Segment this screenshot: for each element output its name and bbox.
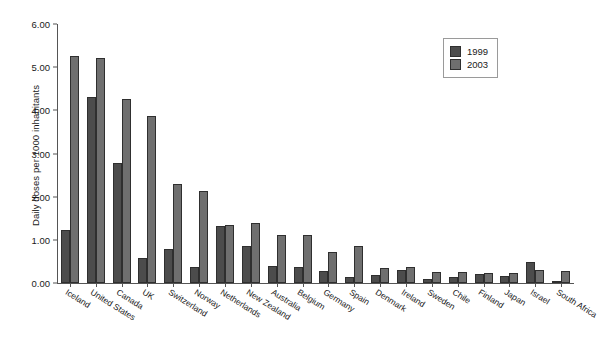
bar-2003 — [122, 99, 131, 283]
bar-1999 — [190, 267, 199, 283]
x-axis-label: Israel — [529, 287, 552, 307]
x-axis-tick-mark — [147, 283, 148, 287]
bar-2003 — [328, 252, 337, 283]
bar-group — [186, 24, 212, 283]
bar-1999 — [345, 277, 354, 283]
x-axis-tick-mark — [225, 283, 226, 287]
x-axis-label: Finland — [477, 287, 506, 310]
bar-group — [341, 24, 367, 283]
x-axis-tick-mark — [277, 283, 278, 287]
bar-group — [316, 24, 342, 283]
bar-group — [83, 24, 109, 283]
bar-2003 — [458, 272, 467, 283]
bar-group — [367, 24, 393, 283]
bar-1999 — [449, 277, 458, 283]
x-axis-label: Japan — [503, 287, 528, 308]
bar-group — [264, 24, 290, 283]
x-axis-label: Sweden — [425, 287, 456, 312]
bar-2003 — [225, 225, 234, 283]
bar-group — [109, 24, 135, 283]
legend-swatch-icon-2003 — [450, 59, 461, 70]
x-axis-line — [57, 283, 574, 284]
bar-2003 — [406, 267, 415, 283]
x-axis-tick-mark — [432, 283, 433, 287]
bar-group — [522, 24, 548, 283]
x-axis-tick-mark — [328, 283, 329, 287]
x-axis-tick-mark — [303, 283, 304, 287]
bar-group — [160, 24, 186, 283]
bar-2003 — [173, 184, 182, 283]
bar-1999 — [526, 262, 535, 283]
x-axis-label: South Africa — [554, 287, 598, 320]
bar-2003 — [509, 273, 518, 283]
bar-1999 — [113, 163, 122, 283]
bar-1999 — [268, 266, 277, 283]
x-axis-tick-mark — [509, 283, 510, 287]
bar-2003 — [277, 235, 286, 283]
bar-2003 — [303, 235, 312, 283]
bar-1999 — [371, 275, 380, 283]
bar-1999 — [216, 226, 225, 283]
legend-item-2003: 2003 — [450, 59, 488, 70]
bar-2003 — [147, 116, 156, 283]
x-axis-tick-mark — [251, 283, 252, 287]
bar-1999 — [138, 258, 147, 283]
x-axis-tick-mark — [354, 283, 355, 287]
bar-1999 — [500, 276, 509, 283]
bar-1999 — [397, 270, 406, 283]
bar-group — [135, 24, 161, 283]
bar-1999 — [164, 249, 173, 283]
bar-2003 — [561, 271, 570, 283]
bar-1999 — [319, 271, 328, 283]
x-axis-tick-mark — [458, 283, 459, 287]
legend: 1999 2003 — [443, 38, 498, 78]
bar-2003 — [380, 268, 389, 283]
bar-1999 — [552, 281, 561, 283]
x-axis-tick-mark — [199, 283, 200, 287]
legend-label-2003: 2003 — [467, 59, 488, 70]
bar-group — [57, 24, 83, 283]
bar-group — [290, 24, 316, 283]
bar-1999 — [475, 274, 484, 283]
bar-group — [212, 24, 238, 283]
x-axis-tick-mark — [406, 283, 407, 287]
bar-1999 — [242, 246, 251, 283]
x-axis-tick-mark — [484, 283, 485, 287]
x-axis-tick-mark — [70, 283, 71, 287]
bar-2003 — [96, 58, 105, 283]
bar-1999 — [87, 97, 96, 283]
x-axis-label: UK — [141, 287, 156, 302]
x-axis-tick-mark — [535, 283, 536, 287]
bar-group — [238, 24, 264, 283]
x-axis-label: Iceland — [63, 287, 92, 310]
bar-2003 — [199, 191, 208, 283]
bar-group — [393, 24, 419, 283]
bar-2003 — [70, 56, 79, 283]
x-axis-tick-mark — [173, 283, 174, 287]
bar-group — [496, 24, 522, 283]
bar-2003 — [535, 270, 544, 283]
bar-1999 — [61, 230, 70, 283]
legend-item-1999: 1999 — [450, 46, 488, 57]
x-axis-tick-mark — [96, 283, 97, 287]
bar-1999 — [423, 279, 432, 283]
x-axis-tick-mark — [122, 283, 123, 287]
bar-group — [548, 24, 574, 283]
bar-2003 — [354, 246, 363, 283]
bar-2003 — [432, 272, 441, 283]
bar-2003 — [251, 223, 260, 283]
x-axis-tick-mark — [561, 283, 562, 287]
x-axis-tick-mark — [380, 283, 381, 287]
bar-2003 — [484, 273, 493, 283]
bar-1999 — [294, 267, 303, 283]
legend-label-1999: 1999 — [467, 46, 488, 57]
bar-group — [419, 24, 445, 283]
legend-swatch-icon-1999 — [450, 46, 461, 57]
